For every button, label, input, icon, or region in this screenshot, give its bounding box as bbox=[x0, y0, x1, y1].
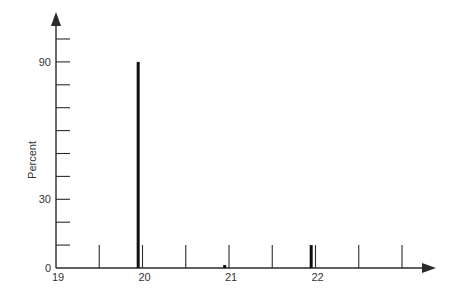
data-bars bbox=[137, 62, 313, 268]
tick-labels: 0309019202122 bbox=[39, 56, 324, 283]
x-tick-label: 21 bbox=[225, 271, 237, 283]
data-bar bbox=[137, 62, 140, 268]
y-tick-label: 0 bbox=[45, 262, 51, 274]
axis-ticks bbox=[56, 39, 402, 268]
y-tick-label: 30 bbox=[39, 193, 51, 205]
data-bar bbox=[223, 265, 226, 268]
x-tick-label: 19 bbox=[52, 271, 64, 283]
x-tick-label: 22 bbox=[311, 271, 323, 283]
histogram-chart: 0309019202122 Percent bbox=[0, 0, 452, 295]
axes bbox=[51, 12, 436, 273]
x-axis-arrow-icon bbox=[422, 263, 436, 273]
y-tick-label: 90 bbox=[39, 56, 51, 68]
x-tick-label: 20 bbox=[138, 271, 150, 283]
y-axis-arrow-icon bbox=[51, 12, 61, 26]
y-axis-label: Percent bbox=[26, 141, 38, 179]
data-bar bbox=[310, 245, 313, 268]
